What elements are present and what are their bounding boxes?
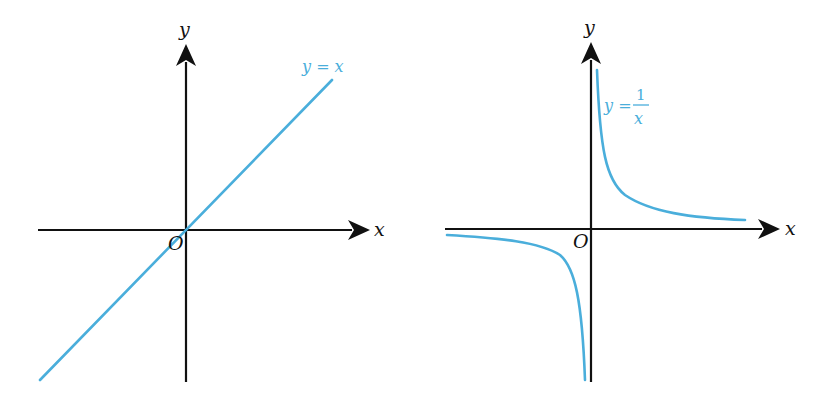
origin-label: O (168, 232, 184, 254)
curve-label: y = x (301, 57, 344, 76)
y-axis-label: y (583, 16, 595, 38)
diagram-canvas: x y O y = x x y O y = 1 x (0, 0, 820, 405)
curve-label-denominator: x (634, 109, 643, 128)
curve-label-numerator: 1 (636, 86, 646, 104)
graph-linear: x y O y = x (38, 18, 385, 382)
x-axis-label: x (785, 217, 796, 239)
x-axis-label: x (374, 218, 385, 240)
graph-reciprocal: x y O y = 1 x (445, 16, 796, 382)
hyperbola-branch-negative (447, 235, 585, 380)
y-axis-label: y (178, 18, 190, 40)
curve-label-lhs: y = (603, 96, 632, 115)
hyperbola-branch-positive (597, 70, 745, 220)
origin-label: O (573, 230, 589, 252)
